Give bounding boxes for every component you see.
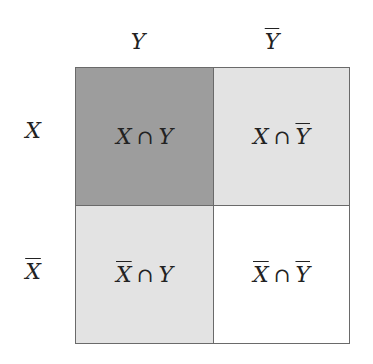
cell-right-var-complement: Y bbox=[295, 262, 310, 287]
row-header-x-complement: X bbox=[25, 261, 41, 283]
intersection-symbol: ∩ bbox=[137, 263, 154, 287]
venn-table-grid: X∩Y X∩Y X∩Y X∩Y bbox=[75, 67, 350, 344]
cell-right-var-complement: Y bbox=[295, 124, 310, 149]
cell-left-var: X bbox=[116, 124, 132, 149]
cell-not-x-and-not-y: X∩Y bbox=[214, 206, 349, 343]
cell-x-and-y: X∩Y bbox=[76, 68, 214, 206]
intersection-symbol: ∩ bbox=[137, 125, 154, 149]
cell-x-and-not-y: X∩Y bbox=[214, 68, 349, 206]
row-header-x: X bbox=[25, 120, 41, 142]
cell-left-var-complement: X bbox=[253, 262, 269, 287]
column-header-y-complement: Y bbox=[265, 31, 280, 53]
cell-not-x-and-y: X∩Y bbox=[76, 206, 214, 343]
cell-right-var: Y bbox=[158, 262, 173, 287]
cell-left-var: X bbox=[253, 124, 269, 149]
cell-left-var-complement: X bbox=[116, 262, 132, 287]
intersection-symbol: ∩ bbox=[274, 263, 291, 287]
column-header-y: Y bbox=[131, 31, 146, 53]
intersection-symbol: ∩ bbox=[274, 125, 291, 149]
cell-right-var: Y bbox=[158, 124, 173, 149]
